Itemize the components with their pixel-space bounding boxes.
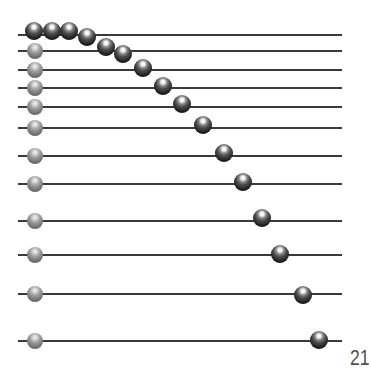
rod-line [18, 220, 342, 222]
dark-bead [310, 331, 328, 349]
count-label: 21 [350, 346, 370, 370]
rod-line [18, 340, 342, 342]
gray-bead [27, 213, 43, 229]
dark-bead [43, 22, 61, 40]
dark-bead [78, 28, 96, 46]
gray-bead [27, 247, 43, 263]
dark-bead [60, 22, 78, 40]
gray-bead [27, 62, 43, 78]
gray-bead [27, 80, 43, 96]
dark-bead [97, 38, 115, 56]
abacus-diagram [0, 0, 371, 383]
dark-bead [234, 173, 252, 191]
dark-bead [215, 144, 233, 162]
dark-bead [271, 245, 289, 263]
rod-line [18, 50, 342, 52]
rod-line [18, 155, 342, 157]
gray-bead [27, 43, 43, 59]
gray-bead [27, 176, 43, 192]
dark-bead [154, 77, 172, 95]
dark-bead [294, 286, 312, 304]
gray-bead [27, 148, 43, 164]
dark-bead [194, 116, 212, 134]
gray-bead [27, 286, 43, 302]
rod-line [18, 183, 342, 185]
dark-bead [134, 59, 152, 77]
gray-bead [27, 120, 43, 136]
rod-line [18, 127, 342, 129]
rod-line [18, 87, 342, 89]
rod-line [18, 254, 342, 256]
dark-bead [25, 22, 43, 40]
dark-bead [173, 95, 191, 113]
dark-bead [253, 209, 271, 227]
gray-bead [27, 99, 43, 115]
gray-bead [27, 333, 43, 349]
dark-bead [114, 45, 132, 63]
rod-line [18, 69, 342, 71]
